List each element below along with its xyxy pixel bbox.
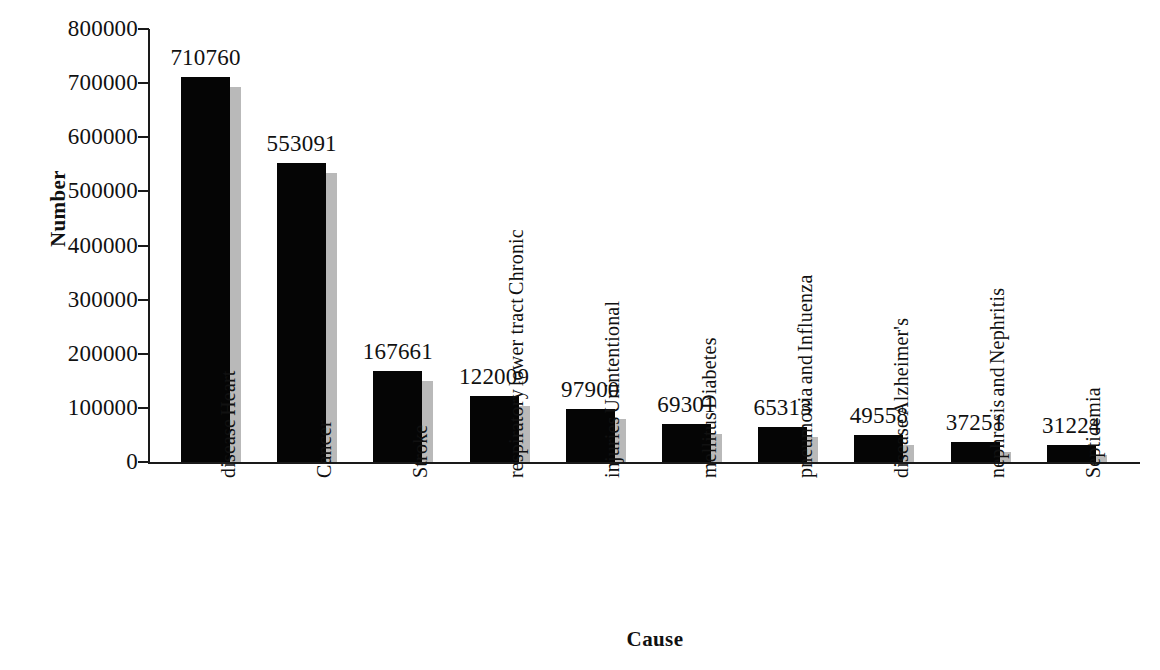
x-axis-title: Cause bbox=[560, 627, 750, 652]
x-axis-category-label-line: injuries bbox=[601, 416, 624, 478]
bar-value-label: 167661 bbox=[343, 340, 453, 363]
x-axis-category-label-line: respiratory bbox=[505, 389, 528, 478]
x-axis-category-label-line: mellitus bbox=[698, 412, 721, 478]
x-axis-category-label: Septicemia bbox=[1082, 387, 1105, 478]
x-axis-category-label: Cancer bbox=[313, 420, 336, 478]
plot-area: 710760Heartdisease553091Cancer167661Stro… bbox=[0, 0, 1160, 670]
bar-chart: Number 800000700000600000500000400000300… bbox=[0, 0, 1160, 670]
bar-value-label: 710760 bbox=[151, 46, 261, 69]
x-axis-category-label-line: Unintentional bbox=[601, 301, 624, 414]
x-axis-category-label-line: Stroke bbox=[409, 425, 432, 478]
bar-value-label: 122009 bbox=[439, 365, 549, 388]
x-axis-category-label-line: and bbox=[794, 355, 817, 384]
bar-value-label: 65313 bbox=[728, 396, 838, 419]
x-axis-category-label-line: Nephritis bbox=[986, 288, 1009, 364]
bar-value-label: 37251 bbox=[920, 411, 1030, 434]
x-axis-category-label-line: lower tract bbox=[505, 298, 528, 386]
x-axis-category-label-line: Cancer bbox=[313, 420, 336, 478]
x-axis-category-label-line: Chronic bbox=[505, 229, 528, 295]
x-axis-category-label: Influenzaandpneumonia bbox=[794, 275, 817, 478]
bar-value-label: 553091 bbox=[247, 132, 357, 155]
bar-value-label: 49558 bbox=[824, 404, 934, 427]
x-axis-category-label-line: nephrosis bbox=[986, 400, 1009, 478]
x-axis-category-label-line: Septicemia bbox=[1082, 387, 1105, 478]
bar[interactable] bbox=[277, 163, 326, 462]
x-axis-category-label: Nephritisandnephrosis bbox=[986, 288, 1009, 478]
x-axis-category-label-line: Alzheimer's bbox=[890, 318, 913, 416]
x-axis-category-label-line: disease bbox=[217, 419, 240, 478]
x-axis-category-label: Unintentionalinjuries bbox=[601, 301, 624, 478]
x-axis-category-label-line: Influenza bbox=[794, 275, 817, 352]
x-axis-category-label: Chroniclower tractrespiratory bbox=[505, 229, 528, 478]
x-axis-category-label-line: Diabetes bbox=[698, 337, 721, 409]
x-axis-category-label-line: and bbox=[986, 367, 1009, 396]
bar-value-label: 31224 bbox=[1016, 414, 1126, 437]
x-axis-category-label-line: Heart bbox=[217, 370, 240, 415]
x-axis-category-label-line: disease bbox=[890, 419, 913, 478]
x-axis-category-label: Alzheimer'sdisease bbox=[890, 318, 913, 478]
bar-value-label: 97900 bbox=[535, 378, 645, 401]
x-axis-category-label: Diabetesmellitus bbox=[698, 337, 721, 478]
x-axis-category-label: Stroke bbox=[409, 425, 432, 478]
x-axis-category-label: Heartdisease bbox=[217, 370, 240, 478]
x-axis-category-label-line: pneumonia bbox=[794, 387, 817, 478]
bar-value-label: 69301 bbox=[632, 393, 742, 416]
